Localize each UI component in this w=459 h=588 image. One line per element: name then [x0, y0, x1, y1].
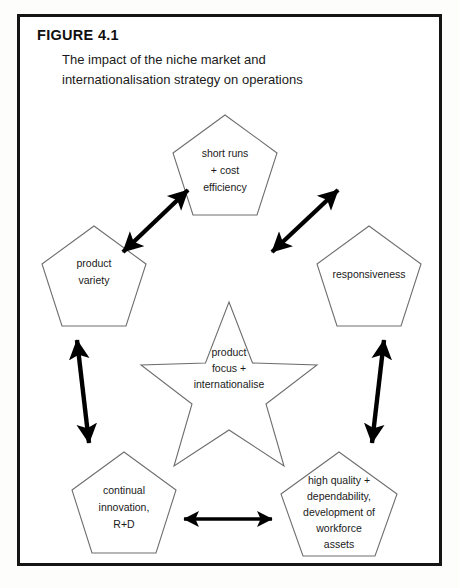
center-star-node: product focus + internationalise	[141, 302, 317, 466]
center-star-line-3: internationalise	[194, 378, 265, 390]
pentagon-bottom-right-line-1: high quality +	[308, 474, 370, 486]
pentagon-node-top: short runs + cost efficiency	[173, 115, 277, 215]
pentagon-bottom-right-line-4: workforce	[315, 522, 362, 534]
center-star-line-1: product	[211, 346, 246, 358]
pentagon-node-bottom-left: continual innovation, R+D	[72, 452, 176, 553]
pentagon-bottom-right-line-3: development of	[303, 506, 375, 518]
pentagon-bottom-left-line-3: R+D	[113, 518, 135, 530]
pentagon-top-line-3: efficiency	[203, 181, 247, 193]
pentagon-right-line-1: responsiveness	[333, 268, 406, 280]
pentagon-top-line-2: + cost	[211, 164, 239, 176]
pentagon-left-line-1: product	[76, 257, 111, 269]
pentagon-bottom-left-line-2: innovation,	[99, 501, 150, 513]
arrow-right-to-bottom-right	[372, 340, 384, 443]
pentagon-bottom-right-line-5: assets	[324, 538, 354, 550]
diagram-canvas: product focus + internationalise short r…	[0, 0, 459, 588]
pentagon-node-left: product variety	[42, 226, 146, 326]
arrow-left-to-top	[123, 190, 188, 252]
figure-root: FIGURE 4.1 The impact of the niche marke…	[0, 0, 459, 588]
pentagon-top-line-1: short runs	[202, 147, 249, 159]
arrow-top-to-right	[272, 190, 338, 252]
pentagon-node-bottom-right: high quality + dependability, developmen…	[281, 452, 397, 556]
pentagon-bottom-right-line-2: dependability,	[307, 490, 371, 502]
arrow-left-to-bottom-left	[77, 340, 89, 443]
pentagon-node-right: responsiveness	[317, 226, 421, 326]
center-star-line-2: focus +	[212, 362, 246, 374]
pentagon-bottom-left-line-1: continual	[103, 484, 145, 496]
pentagon-left-line-2: variety	[79, 274, 111, 286]
